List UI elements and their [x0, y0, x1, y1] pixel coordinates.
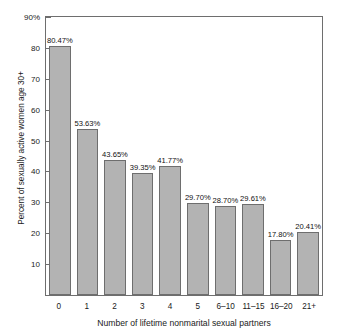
bar-slot: 43.65%	[101, 17, 129, 295]
y-axis-tick-label: 30	[31, 198, 46, 207]
bar-slot: 17.80%	[267, 17, 295, 295]
bars-container: 80.47%53.63%43.65%39.35%41.77%29.70%28.7…	[46, 17, 322, 295]
bar-slot: 28.70%	[212, 17, 240, 295]
bar	[297, 232, 319, 295]
x-axis-tick-label: 3	[128, 300, 156, 314]
bar-chart: Percent of sexually active women age 30+…	[0, 0, 347, 336]
bar-slot: 53.63%	[74, 17, 102, 295]
y-axis-tick-label: 20	[31, 229, 46, 238]
bar-value-label: 80.47%	[47, 36, 73, 45]
bar-value-label: 53.63%	[75, 119, 101, 128]
x-axis-tick-label: 2	[101, 300, 129, 314]
bar	[77, 129, 99, 295]
bar-value-label: 29.61%	[240, 194, 266, 203]
x-axis-title: Number of lifetime nonmarital sexual par…	[45, 318, 323, 328]
bar-slot: 39.35%	[129, 17, 157, 295]
x-axis-tick-label: 21+	[295, 300, 323, 314]
x-axis-tick-label: 6–10	[212, 300, 240, 314]
bar-slot: 29.61%	[239, 17, 267, 295]
bar-value-label: 28.70%	[212, 196, 238, 205]
y-axis-tick-label: 70	[31, 74, 46, 83]
bar	[132, 173, 154, 295]
bar-value-label: 39.35%	[130, 163, 156, 172]
x-axis-tick-labels: 0123456–1011–1516–2021+	[45, 300, 323, 314]
bar	[242, 204, 264, 295]
x-axis-tick-label: 1	[73, 300, 101, 314]
bar-value-label: 41.77%	[157, 156, 183, 165]
bar-slot: 29.70%	[184, 17, 212, 295]
y-axis-tick-label: 60	[31, 105, 46, 114]
bar	[270, 240, 292, 295]
y-axis-title: Percent of sexually active women age 30+	[14, 0, 28, 296]
plot-area: 90%8070605040302010 80.47%53.63%43.65%39…	[45, 16, 323, 296]
bar-slot: 41.77%	[156, 17, 184, 295]
bar-value-label: 20.41%	[295, 222, 321, 231]
bar	[159, 166, 181, 295]
y-axis-tick-label: 80	[31, 43, 46, 52]
bar-value-label: 43.65%	[102, 150, 128, 159]
bar	[215, 206, 237, 295]
x-axis-tick-label: 16–20	[267, 300, 295, 314]
y-axis-tick-label: 10	[31, 260, 46, 269]
bar-slot: 20.41%	[294, 17, 322, 295]
y-axis-tick-label: 90%	[24, 13, 46, 22]
bar	[49, 46, 71, 295]
x-axis-tick-label: 5	[184, 300, 212, 314]
y-axis-tick-label: 50	[31, 136, 46, 145]
bar-slot: 80.47%	[46, 17, 74, 295]
x-axis-tick-label: 0	[45, 300, 73, 314]
bar-value-label: 29.70%	[185, 193, 211, 202]
bar	[104, 160, 126, 295]
x-axis-tick-label: 4	[156, 300, 184, 314]
bar	[187, 203, 209, 295]
bar-value-label: 17.80%	[268, 230, 294, 239]
y-axis-tick-label: 40	[31, 167, 46, 176]
x-axis-tick-label: 11–15	[240, 300, 268, 314]
